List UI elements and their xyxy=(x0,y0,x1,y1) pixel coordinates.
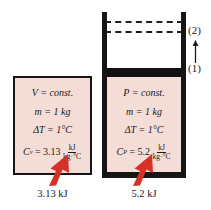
cv-subscript: v xyxy=(30,149,33,155)
constant-volume-mass-label: m = 1 kg xyxy=(13,107,92,117)
constant-volume-equation-block: V = const. m = 1 kg ΔT = 1°C Cv = 3.13 k… xyxy=(13,88,92,161)
piston-block xyxy=(107,68,181,77)
constant-volume-caption: 3.13 kJ xyxy=(13,188,92,199)
state-label-2: (2) xyxy=(188,25,201,36)
constant-pressure-equation-block: P = const. m = 1 kg ΔT = 1°C CP = 5.2 kJ… xyxy=(102,88,186,161)
piston-final-position-dashed-line-lower xyxy=(105,31,183,33)
heat-input-arrow-constant-volume xyxy=(47,152,73,186)
piston-final-position-dashed-line-upper xyxy=(105,21,183,23)
constant-volume-process-label: V = const. xyxy=(13,88,92,98)
constant-pressure-mass-label: m = 1 kg xyxy=(102,107,186,117)
state-label-1: (1) xyxy=(188,63,201,74)
piston-motion-up-arrow-icon xyxy=(191,40,200,63)
constant-pressure-process-label: P = const. xyxy=(102,88,186,98)
heat-input-arrow-constant-pressure xyxy=(131,152,157,186)
constant-volume-deltat-label: ΔT = 1°C xyxy=(13,125,92,135)
cp-subscript: P xyxy=(123,149,127,155)
constant-pressure-deltat-label: ΔT = 1°C xyxy=(102,125,186,135)
cv-symbol: C xyxy=(23,147,30,157)
specific-heat-comparison-figure: V = const. m = 1 kg ΔT = 1°C Cv = 3.13 k… xyxy=(0,0,211,210)
cv-equals-sign: = xyxy=(35,147,41,157)
constant-pressure-caption: 5.2 kJ xyxy=(102,188,186,199)
